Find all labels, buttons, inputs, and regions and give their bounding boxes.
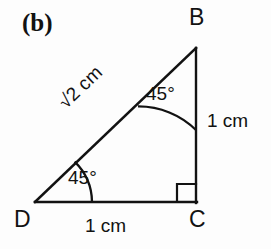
- part-label: (b): [22, 10, 53, 35]
- angle-label-d: 45°: [68, 168, 97, 187]
- geometry-figure: (b) B C D 45° 45° 1 cm 1 cm √2 cm: [0, 0, 271, 249]
- side-db-hypotenuse-line: [35, 48, 196, 202]
- angle-label-b: 45°: [146, 84, 175, 103]
- side-length-dc: 1 cm: [85, 216, 126, 235]
- right-angle-marker-icon: [177, 184, 196, 202]
- vertex-label-b: B: [189, 6, 205, 29]
- vertex-label-c: C: [189, 208, 206, 231]
- side-length-bc: 1 cm: [207, 111, 248, 130]
- vertex-label-d: D: [14, 208, 31, 231]
- angle-arc-b: [138, 106, 196, 130]
